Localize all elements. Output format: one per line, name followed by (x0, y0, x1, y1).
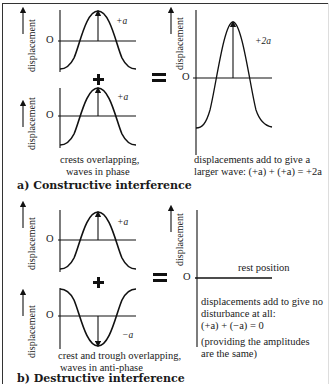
note-line: crests overlapping, (60, 154, 139, 166)
note-line: disturbance at all: (201, 308, 276, 320)
rest-position-label: rest position (238, 262, 290, 274)
amplitude-label: +2a (255, 36, 271, 46)
origin-label: O (46, 34, 54, 45)
origin-label: O (46, 233, 54, 244)
note-line: larger wave: (+a) + (+a) = +2a (194, 166, 322, 178)
equals-icon (153, 273, 167, 282)
amplitude-label: +a (117, 92, 128, 102)
amplitude-label: +a (117, 217, 128, 227)
note-line: (+a) + (−a) = 0 (201, 320, 264, 332)
plus-icon (93, 74, 104, 85)
note-line: (providing the amplitudes (201, 336, 309, 348)
y-axis-label: displacement (26, 217, 37, 270)
note-line: waves in phase (66, 166, 130, 178)
y-axis-label: displacement (26, 97, 37, 150)
amplitude-label: +a (116, 16, 127, 26)
plus-icon (93, 277, 104, 288)
y-axis-label: displacement (174, 17, 185, 70)
note-line: are the same) (201, 348, 257, 360)
origin-label: O (46, 309, 54, 320)
section-caption: a) Constructive interference (17, 179, 192, 192)
equals-icon (152, 73, 166, 82)
y-axis-label: displacement (26, 19, 37, 72)
y-axis-label: displacement (26, 305, 37, 358)
wave-diagrams (0, 0, 330, 384)
origin-label: O (46, 109, 54, 120)
note-line: displacements add to give no (201, 296, 323, 308)
y-axis-label: displacement (174, 213, 185, 266)
origin-label: O (183, 271, 191, 282)
note-line: displacements add to give a (194, 154, 310, 166)
amplitude-label: −a (122, 330, 133, 340)
section-caption: b) Destructive interference (17, 372, 185, 384)
note-line: crest and trough overlapping, (58, 350, 181, 362)
origin-label: O (182, 71, 190, 82)
